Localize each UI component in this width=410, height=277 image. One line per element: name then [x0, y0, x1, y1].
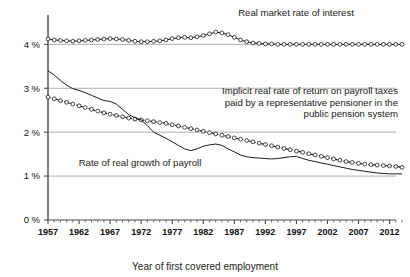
series-marker-1-1979	[183, 125, 187, 129]
series-marker-1-1998	[301, 150, 305, 154]
series-marker-0-1970	[127, 39, 131, 43]
series-marker-0-1972	[139, 40, 143, 44]
series-marker-0-2013	[394, 42, 398, 46]
x-tick-label-2007: 2007	[349, 227, 369, 237]
series-marker-1-2006	[350, 161, 354, 165]
series-marker-0-1994	[276, 42, 280, 46]
series-marker-1-1982	[201, 129, 205, 133]
series-marker-0-1991	[257, 42, 261, 46]
series-marker-0-2006	[350, 42, 354, 46]
series-marker-0-1989	[245, 40, 249, 44]
series-marker-0-1958	[52, 38, 56, 42]
series-marker-0-1978	[177, 36, 181, 40]
series-marker-0-1961	[71, 39, 75, 43]
series-marker-1-1958	[52, 97, 56, 101]
series-marker-0-2005	[344, 42, 348, 46]
series-marker-0-1967	[108, 37, 112, 41]
series-marker-1-1969	[121, 115, 125, 119]
series-marker-1-1966	[102, 111, 106, 115]
x-tick-label-1962: 1962	[69, 227, 89, 237]
series-marker-0-1980	[189, 36, 193, 40]
annotation-rate-real-growth-line-0: Rate of real growth of payroll	[79, 157, 202, 168]
series-marker-0-1985	[220, 31, 224, 35]
series-marker-0-1987	[232, 35, 236, 39]
series-marker-1-1984	[214, 132, 218, 136]
series-marker-1-2013	[394, 165, 398, 169]
y-tick-label-0: 0 %	[24, 214, 41, 225]
annotation-implicit-real-rate-line-0: Implicit real rate of return on payroll …	[222, 85, 398, 96]
x-tick-label-1987: 1987	[224, 227, 244, 237]
series-marker-1-1988	[239, 137, 243, 141]
series-marker-0-1963	[83, 39, 87, 43]
annotation-implicit-real-rate-line-2: public pension system	[304, 108, 398, 119]
series-marker-1-1995	[282, 147, 286, 151]
series-marker-1-2004	[338, 158, 342, 162]
y-tick-label-2: 2 %	[24, 127, 41, 138]
series-marker-0-1969	[121, 38, 125, 42]
series-marker-0-1979	[183, 35, 187, 39]
series-marker-1-2008	[363, 162, 367, 166]
line-chart: 0 %1 %2 %3 %4 % 195719621967197219771982…	[0, 0, 410, 277]
series-marker-1-1976	[164, 121, 168, 125]
x-axis-title: Year of first covered employment	[132, 261, 278, 272]
series-marker-1-2010	[375, 163, 379, 167]
series-marker-1-2014	[400, 165, 404, 169]
series-marker-0-1997	[295, 42, 299, 46]
y-tick-label-4: 4 %	[24, 39, 41, 50]
y-tick-label-1: 1 %	[24, 170, 41, 181]
series-marker-0-1976	[164, 38, 168, 42]
series-marker-1-2011	[381, 164, 385, 168]
series-marker-1-1977	[170, 123, 174, 127]
series-marker-1-2012	[388, 164, 392, 168]
series-marker-1-1959	[59, 99, 63, 103]
chart-figure: 0 %1 %2 %3 %4 % 195719621967197219771982…	[0, 0, 410, 277]
series-marker-1-1978	[177, 124, 181, 128]
series-marker-1-1983	[208, 131, 212, 135]
series-marker-0-1964	[90, 38, 94, 42]
series-marker-0-1957	[46, 37, 50, 41]
series-marker-0-2007	[357, 42, 361, 46]
x-tick-label-1967: 1967	[100, 227, 120, 237]
series-marker-0-1962	[77, 39, 81, 43]
series-marker-1-1973	[145, 119, 149, 123]
series-marker-1-1992	[263, 143, 267, 147]
series-marker-1-1986	[226, 135, 230, 139]
x-tick-label-1972: 1972	[131, 227, 151, 237]
x-tick-label-1982: 1982	[193, 227, 213, 237]
series-marker-1-1991	[257, 141, 261, 145]
annotation-rate-real-growth: Rate of real growth of payroll	[79, 157, 202, 168]
series-marker-1-2002	[326, 156, 330, 160]
series-marker-1-1989	[245, 139, 249, 143]
series-marker-0-1971	[133, 39, 137, 43]
series-marker-0-1986	[226, 33, 230, 37]
series-marker-1-1967	[108, 112, 112, 116]
series-marker-0-2014	[400, 42, 404, 46]
series-marker-1-1981	[195, 128, 199, 132]
x-tick-label-1992: 1992	[255, 227, 275, 237]
series-marker-1-2009	[369, 163, 373, 167]
series-marker-0-1974	[152, 39, 156, 43]
series-marker-0-1999	[307, 42, 311, 46]
annotation-implicit-real-rate-line-1: paid by a representative pensioner in th…	[225, 97, 398, 108]
series-marker-1-1957	[46, 95, 50, 99]
series-marker-1-1994	[276, 145, 280, 149]
series-marker-0-2000	[313, 42, 317, 46]
x-tick-label-1977: 1977	[162, 227, 182, 237]
annotation-real-market-rate: Real market rate of interest	[238, 7, 354, 18]
series-marker-0-1990	[251, 41, 255, 45]
series-marker-1-1965	[96, 109, 100, 113]
series-marker-1-2000	[313, 153, 317, 157]
series-marker-0-1975	[158, 39, 162, 43]
series-marker-0-1973	[145, 40, 149, 44]
series-marker-1-1974	[152, 120, 156, 124]
x-tick-label-1997: 1997	[286, 227, 306, 237]
series-marker-1-1990	[251, 140, 255, 144]
series-marker-1-1987	[232, 136, 236, 140]
series-marker-1-1963	[83, 106, 87, 110]
series-marker-0-1982	[201, 34, 205, 38]
series-marker-1-2001	[319, 154, 323, 158]
series-marker-1-1961	[71, 102, 75, 106]
series-marker-0-1983	[208, 32, 212, 36]
series-marker-0-1960	[65, 39, 69, 43]
series-marker-1-1962	[77, 104, 81, 108]
